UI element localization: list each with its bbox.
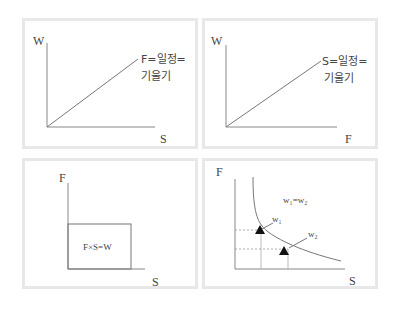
- point2-label: w₂: [308, 229, 318, 239]
- diagram-force-displacement-area: F F×S=W S: [25, 161, 201, 292]
- x-axis-label: S: [160, 132, 167, 146]
- linear-line: [226, 61, 321, 127]
- line-label-2: 기울기: [141, 70, 171, 83]
- y-axis-label: W: [211, 34, 223, 48]
- y-axis-label: F: [59, 171, 66, 185]
- panel-work-vs-displacement: W F=일정= 기울기 S: [22, 18, 198, 149]
- line-label-1: S=일정=: [322, 54, 367, 68]
- line-label-1: F=일정=: [141, 52, 186, 66]
- y-axis-label: F: [216, 165, 223, 179]
- x-axis-label: F: [345, 132, 352, 146]
- curve-label: w₁=w₂: [283, 195, 307, 205]
- panel-constant-work-curve: F w₁=w₂ w₁ w₂ S: [202, 158, 378, 289]
- point2-marker: [279, 246, 289, 255]
- area-label: F×S=W: [83, 242, 112, 252]
- constant-work-curve: [253, 177, 341, 261]
- linear-line: [47, 59, 138, 127]
- point2-leader: [289, 238, 307, 248]
- line-label-2: 기울기: [324, 72, 354, 85]
- diagram-work-vs-displacement: W F=일정= 기울기 S: [25, 21, 201, 152]
- x-axis-label: S: [349, 274, 356, 288]
- panel-force-displacement-area: F F×S=W S: [22, 158, 198, 289]
- y-axis-label: W: [33, 34, 45, 48]
- diagram-constant-work-curve: F w₁=w₂ w₁ w₂ S: [205, 161, 381, 292]
- point1-marker: [255, 225, 265, 234]
- x-axis-label: S: [152, 275, 159, 289]
- point1-label: w₁: [272, 214, 282, 224]
- panel-work-vs-force: W S=일정= 기울기 F: [202, 18, 378, 149]
- diagram-work-vs-force: W S=일정= 기울기 F: [205, 21, 381, 152]
